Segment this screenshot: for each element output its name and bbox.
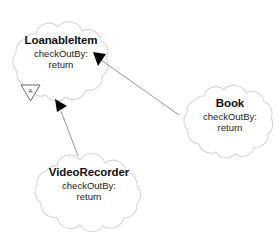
diagram-canvas: A LoanableItem checkOutBy: return Book c…	[0, 0, 279, 241]
node-attribute-loanableitem-0: checkOutBy:	[14, 48, 108, 59]
node-attribute-loanableitem-1: return	[14, 59, 108, 70]
arrowhead-solid-triangle	[55, 99, 67, 112]
node-attribute-book-1: return	[182, 122, 278, 133]
node-attribute-videorecorder-1: return	[33, 191, 145, 202]
node-label-loanableitem: LoanableItem checkOutBy: return	[14, 34, 108, 70]
node-label-book: Book checkOutBy: return	[182, 97, 278, 133]
node-title-videorecorder: VideoRecorder	[33, 166, 145, 180]
abstract-marker-letter: A	[28, 88, 32, 94]
node-label-videorecorder: VideoRecorder checkOutBy: return	[33, 166, 145, 202]
node-title-loanableitem: LoanableItem	[14, 34, 108, 48]
node-title-book: Book	[182, 97, 278, 111]
node-attribute-videorecorder-0: checkOutBy:	[33, 180, 145, 191]
edge-videorecorder-to-loanableitem[interactable]	[55, 99, 78, 156]
node-attribute-book-0: checkOutBy:	[182, 111, 278, 122]
